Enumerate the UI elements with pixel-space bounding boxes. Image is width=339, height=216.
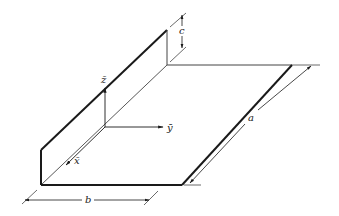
- x-axis-arrow: [66, 127, 105, 165]
- y-axis-label: ȳ: [166, 122, 173, 133]
- dimension-c-label: c: [179, 25, 185, 36]
- dimension-c: c: [170, 13, 186, 62]
- dimension-a: a: [184, 65, 320, 185]
- angle-section-diagram: z̄ ȳ x̄ c b a: [0, 0, 339, 216]
- dimension-b: b: [22, 190, 158, 205]
- dimension-a-label: a: [248, 112, 254, 123]
- x-axis-label: x̄: [74, 155, 80, 166]
- z-axis-label: z̄: [100, 74, 107, 85]
- diagram-canvas: z̄ ȳ x̄ c b a: [0, 0, 339, 216]
- vertical-flange: [41, 30, 167, 185]
- dimension-b-label: b: [85, 194, 91, 205]
- coordinate-axes: z̄ ȳ x̄: [66, 74, 173, 166]
